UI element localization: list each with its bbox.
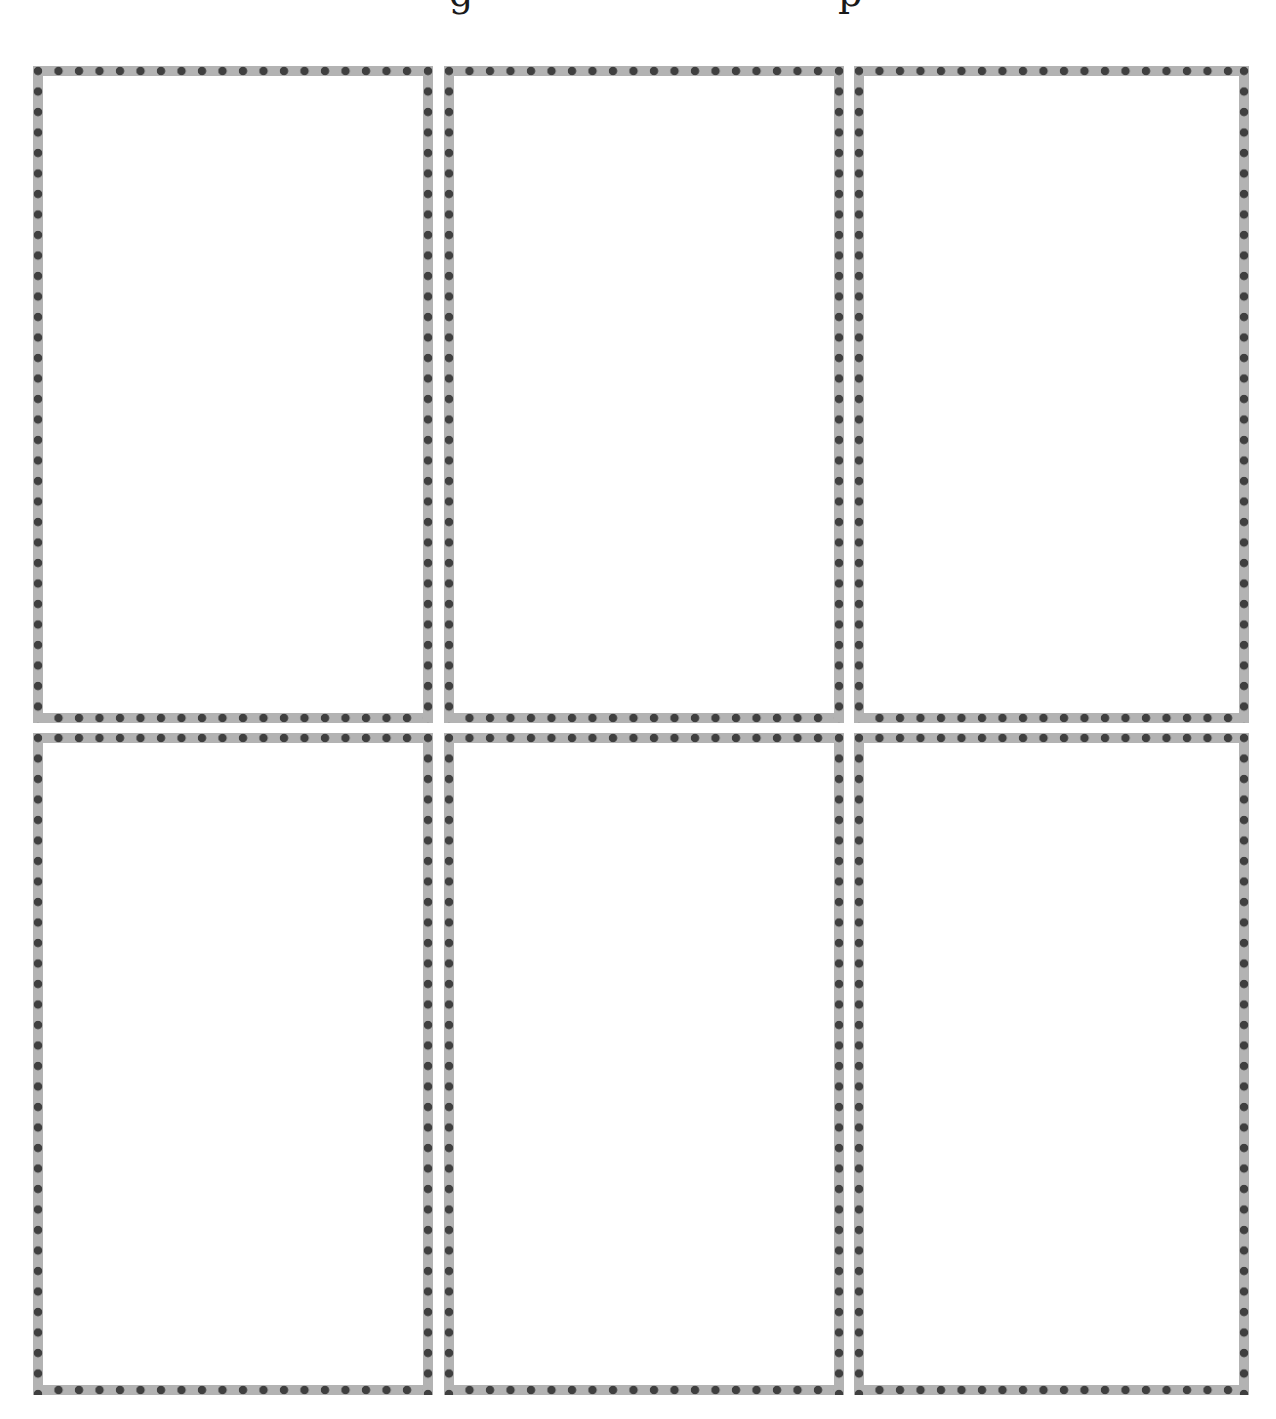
dotted-border-right: [423, 66, 433, 723]
dotted-border-top: [854, 733, 1249, 743]
dotted-border-right: [1239, 733, 1249, 1395]
dotted-border-top: [33, 66, 433, 76]
dotted-border-right: [834, 733, 844, 1395]
dotted-border-bottom: [33, 713, 433, 723]
blank-panel-5: [444, 733, 844, 1395]
dotted-border-left: [854, 66, 864, 723]
panel-content-area: [454, 743, 834, 1385]
dotted-border-right: [423, 733, 433, 1395]
dotted-border-bottom: [444, 1385, 844, 1395]
dotted-border-right: [834, 66, 844, 723]
blank-panel-6: [854, 733, 1249, 1395]
dotted-border-top: [854, 66, 1249, 76]
panel-content-area: [864, 743, 1239, 1385]
page-heading-cropped: gp: [0, 0, 1276, 16]
dotted-border-bottom: [444, 713, 844, 723]
dotted-border-left: [33, 66, 43, 723]
panel-content-area: [43, 743, 423, 1385]
dotted-border-left: [854, 733, 864, 1395]
dotted-border-bottom: [854, 713, 1249, 723]
heading-glyph-fragment: p: [838, 0, 862, 16]
dotted-border-left: [444, 733, 454, 1395]
panel-grid: [33, 66, 1249, 1395]
panel-content-area: [454, 76, 834, 713]
panel-content-area: [864, 76, 1239, 713]
dotted-border-top: [444, 66, 844, 76]
dotted-border-left: [444, 66, 454, 723]
dotted-border-bottom: [854, 1385, 1249, 1395]
blank-panel-2: [444, 66, 844, 723]
dotted-border-bottom: [33, 1385, 433, 1395]
dotted-border-right: [1239, 66, 1249, 723]
blank-panel-1: [33, 66, 433, 723]
blank-panel-4: [33, 733, 433, 1395]
panel-content-area: [43, 76, 423, 713]
blank-panel-3: [854, 66, 1249, 723]
dotted-border-top: [444, 733, 844, 743]
dotted-border-left: [33, 733, 43, 1395]
dotted-border-top: [33, 733, 433, 743]
heading-glyph-fragment: g: [449, 0, 473, 16]
